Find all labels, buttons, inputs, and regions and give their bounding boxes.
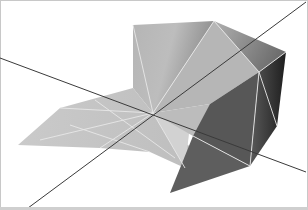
3d-scene [0, 0, 308, 210]
viewport-bottom-border [0, 207, 308, 210]
